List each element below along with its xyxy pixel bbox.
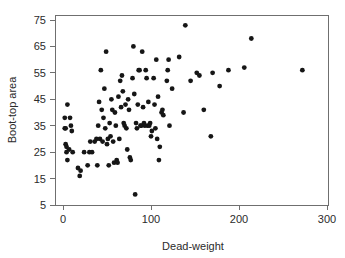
data-point bbox=[210, 70, 215, 75]
data-point bbox=[120, 73, 125, 78]
x-tick-label: 100 bbox=[142, 213, 160, 225]
data-point bbox=[106, 163, 111, 168]
data-point bbox=[98, 68, 103, 73]
data-point bbox=[140, 49, 145, 54]
data-point bbox=[62, 115, 67, 120]
data-point bbox=[170, 86, 175, 91]
data-point bbox=[167, 123, 172, 128]
y-tick-label: 45 bbox=[34, 93, 46, 105]
data-point bbox=[70, 150, 75, 155]
data-point bbox=[82, 150, 87, 155]
data-point bbox=[151, 76, 156, 81]
data-point bbox=[143, 68, 148, 73]
data-point bbox=[100, 139, 105, 144]
data-point bbox=[118, 78, 123, 83]
data-point bbox=[183, 23, 188, 28]
data-point bbox=[131, 44, 136, 49]
data-point bbox=[78, 168, 83, 173]
data-point bbox=[208, 134, 213, 139]
data-point bbox=[65, 158, 70, 163]
data-point bbox=[165, 68, 170, 73]
data-point bbox=[148, 121, 153, 126]
y-tick-label: 35 bbox=[34, 120, 46, 132]
data-point bbox=[95, 163, 100, 168]
data-point bbox=[157, 158, 162, 163]
data-point bbox=[63, 126, 68, 131]
data-point bbox=[157, 144, 162, 149]
data-point bbox=[164, 78, 169, 83]
y-tick-label: 65 bbox=[34, 40, 46, 52]
data-point bbox=[99, 107, 104, 112]
data-point bbox=[161, 113, 166, 118]
plot-frame bbox=[55, 15, 328, 205]
y-tick-label: 5 bbox=[40, 199, 46, 211]
x-tick-label: 0 bbox=[60, 213, 66, 225]
data-point bbox=[201, 107, 206, 112]
data-point bbox=[156, 94, 161, 99]
data-point bbox=[85, 163, 90, 168]
data-point bbox=[113, 123, 118, 128]
data-point bbox=[105, 142, 110, 147]
data-point bbox=[102, 86, 107, 91]
plot-canvas: 0100200300 515253545556575 Dead-weight B… bbox=[0, 0, 345, 258]
x-tick-label: 200 bbox=[230, 213, 248, 225]
data-point bbox=[125, 147, 130, 152]
data-point bbox=[166, 57, 171, 62]
data-point bbox=[160, 107, 165, 112]
data-point bbox=[68, 115, 73, 120]
data-point bbox=[226, 68, 231, 73]
data-point bbox=[124, 126, 129, 131]
y-axis-ticks: 515253545556575 bbox=[34, 14, 55, 211]
data-point bbox=[97, 100, 102, 105]
data-point bbox=[300, 68, 305, 73]
y-tick-label: 25 bbox=[34, 146, 46, 158]
y-tick-label: 15 bbox=[34, 173, 46, 185]
data-point bbox=[137, 68, 142, 73]
data-point bbox=[249, 36, 254, 41]
x-axis-ticks: 0100200300 bbox=[60, 205, 336, 225]
data-point bbox=[149, 134, 154, 139]
data-point bbox=[177, 55, 182, 60]
data-point bbox=[115, 160, 120, 165]
data-points-layer bbox=[62, 23, 304, 197]
data-point bbox=[152, 102, 157, 107]
data-point bbox=[135, 102, 140, 107]
data-point bbox=[154, 57, 159, 62]
data-point bbox=[141, 105, 146, 110]
data-point bbox=[126, 97, 131, 102]
data-point bbox=[144, 76, 149, 81]
data-point bbox=[111, 139, 116, 144]
data-point bbox=[130, 76, 135, 81]
data-point bbox=[119, 105, 124, 110]
data-point bbox=[128, 158, 133, 163]
y-tick-label: 75 bbox=[34, 14, 46, 26]
data-point bbox=[155, 137, 160, 142]
x-tick-label: 300 bbox=[318, 213, 336, 225]
data-point bbox=[109, 97, 114, 102]
data-point bbox=[107, 121, 112, 126]
y-axis-title: Boot-top area bbox=[6, 76, 18, 144]
data-point bbox=[123, 102, 128, 107]
data-point bbox=[133, 192, 138, 197]
data-point bbox=[132, 92, 137, 97]
data-point bbox=[120, 89, 125, 94]
data-point bbox=[146, 100, 151, 105]
data-point bbox=[103, 126, 108, 131]
data-point bbox=[242, 65, 247, 70]
data-point bbox=[69, 123, 74, 128]
x-axis-title: Dead-weight bbox=[162, 240, 224, 252]
data-point bbox=[117, 137, 122, 142]
data-point bbox=[116, 94, 121, 99]
data-point bbox=[65, 102, 70, 107]
data-point bbox=[108, 134, 113, 139]
data-point bbox=[77, 174, 82, 179]
data-point bbox=[88, 139, 93, 144]
y-tick-label: 55 bbox=[34, 67, 46, 79]
data-point bbox=[217, 84, 222, 89]
data-point bbox=[96, 123, 101, 128]
data-point bbox=[197, 73, 202, 78]
data-point bbox=[104, 49, 109, 54]
data-point bbox=[127, 107, 132, 112]
scatter-plot-figure: 0100200300 515253545556575 Dead-weight B… bbox=[0, 0, 345, 258]
data-point bbox=[101, 115, 106, 120]
